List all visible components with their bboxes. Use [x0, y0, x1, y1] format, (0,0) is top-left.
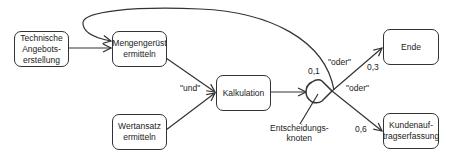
probability-loop: 0,1 — [308, 66, 320, 76]
node-label: Kundenauf- tragserfassung — [383, 120, 439, 142]
probability-ende: 0,3 — [367, 62, 379, 72]
edge-wertansatz-kalkulation — [166, 93, 215, 130]
decision-node-shape — [306, 80, 332, 103]
node-kundenauftragserfassung[interactable]: Kundenauf- tragserfassung — [383, 113, 439, 149]
node-technische-angebotserstellung[interactable]: Technische Angebots- erstellung — [14, 31, 69, 67]
node-label: Kalkulation — [223, 88, 265, 99]
probability-kunden: 0,6 — [355, 124, 367, 134]
node-label: Ende — [401, 42, 421, 53]
node-label: Technische Angebots- erstellung — [20, 33, 63, 66]
node-label: Wertansatz ermitteln — [118, 121, 161, 143]
edge-label-oder-top: "oder" — [328, 57, 351, 67]
edge-label-oder-bottom: "oder" — [346, 83, 369, 93]
node-wertansatz-ermitteln[interactable]: Wertansatz ermitteln — [112, 114, 167, 150]
edge-label-und: "und" — [180, 83, 200, 93]
node-mengengeruest-ermitteln[interactable]: Mengengerüst ermitteln — [112, 31, 167, 67]
decision-node-label: Entscheidungs- knoten — [270, 123, 329, 143]
node-label: Mengengerüst ermitteln — [112, 38, 166, 60]
node-ende[interactable]: Ende — [383, 29, 439, 65]
node-kalkulation[interactable]: Kalkulation — [216, 75, 271, 111]
